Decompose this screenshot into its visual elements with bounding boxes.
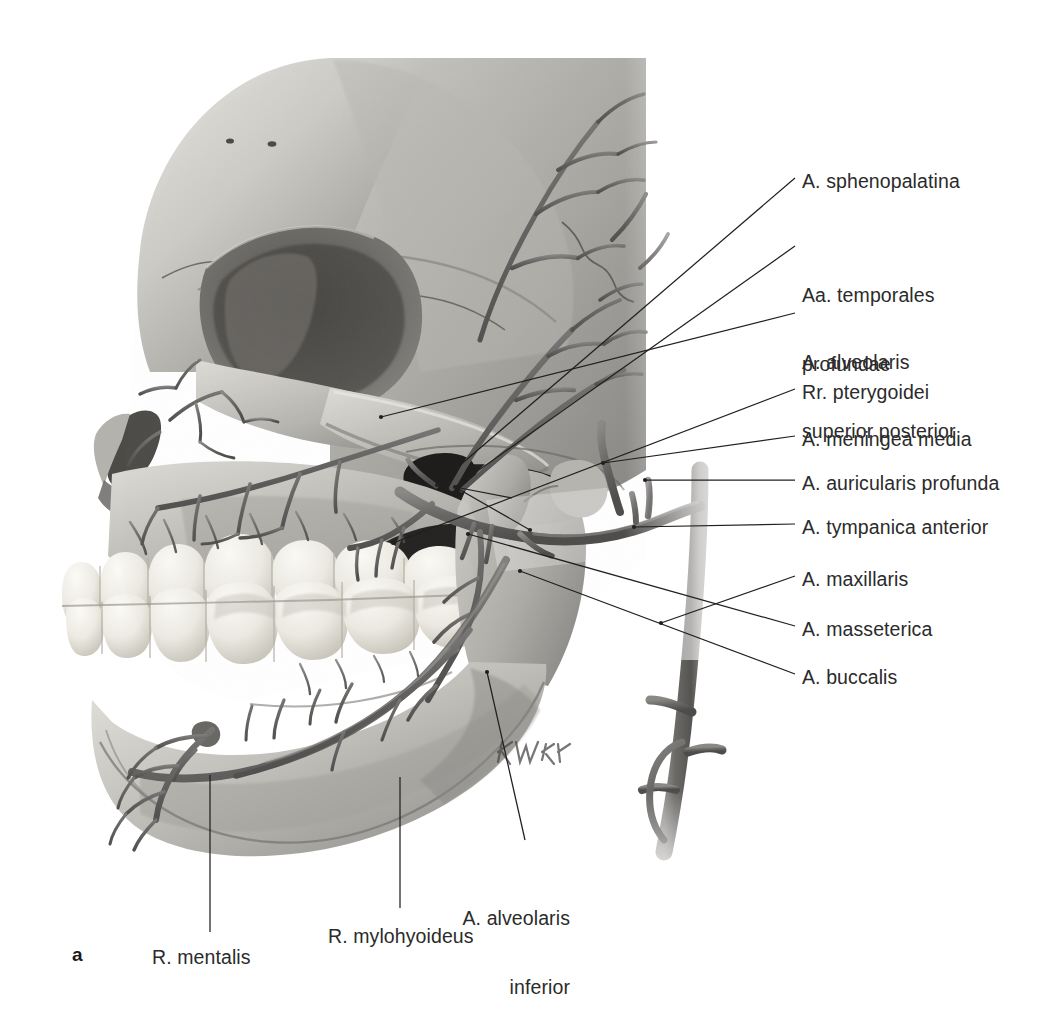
label-a-tympanica-anterior: A. tympanica anterior xyxy=(802,516,988,539)
label-line-1: A. alveolaris xyxy=(802,351,956,374)
figure-letter-a: a xyxy=(72,944,83,966)
label-a-auricularis-profunda: A. auricularis profunda xyxy=(802,472,999,495)
label-a-masseterica: A. masseterica xyxy=(802,618,932,641)
label-r-mylohyoideus: R. mylohyoideus xyxy=(328,925,474,948)
bottom-fade xyxy=(600,790,760,900)
label-a-maxillaris: A. maxillaris xyxy=(802,568,908,591)
label-a-meningea-media: A. meningea media xyxy=(802,428,972,451)
label-a-buccalis: A. buccalis xyxy=(802,666,897,689)
label-a-sphenopalatina: A. sphenopalatina xyxy=(802,170,960,193)
label-line-1: Aa. temporales xyxy=(802,284,935,307)
carotid-branch-mid xyxy=(688,748,722,752)
label-rr-pterygoidei: Rr. pterygoidei xyxy=(802,381,929,404)
anatomical-figure: A. sphenopalatina Aa. temporales profund… xyxy=(0,0,1047,1018)
label-line-2: inferior xyxy=(398,976,570,999)
label-r-mentalis: R. mentalis xyxy=(152,946,251,969)
